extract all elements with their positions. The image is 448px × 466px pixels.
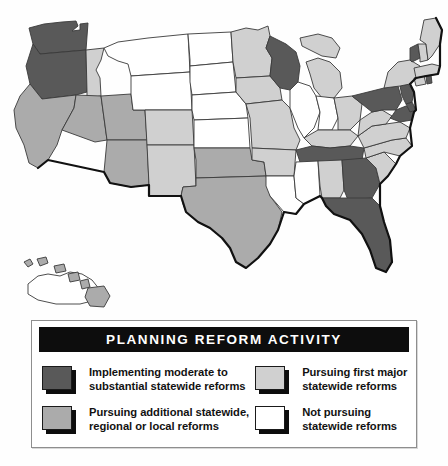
state-MN[interactable] [231,26,272,78]
legend-label-line2: statewide reforms [302,420,397,434]
legend-item-implementing[interactable]: Implementing moderate to substantial sta… [42,359,249,399]
legend-label-additional: Pursuing additional statewide, regional … [89,405,249,433]
legend-items-grid: Implementing moderate to substantial sta… [42,359,406,439]
legend-swatch-not-pursuing [255,406,285,430]
legend-swatch-wrap-additional [42,406,80,436]
legend-swatch-first-major [255,366,285,390]
state-NY[interactable] [384,60,420,88]
legend-label-implementing: Implementing moderate to substantial sta… [89,365,245,393]
legend-title: PLANNING REFORM ACTIVITY [106,332,342,347]
state-ND[interactable] [188,32,233,66]
legend-label-line2: statewide reforms [302,380,407,394]
state-ID[interactable] [86,48,104,98]
state-WA[interactable] [29,21,88,54]
legend-label-first-major: Pursuing first major statewide reforms [302,365,407,393]
state-SD[interactable] [190,62,236,95]
state-AZ[interactable] [104,140,149,187]
us-choropleth-map [0,0,448,312]
legend-label-line1: Not pursuing [302,406,397,420]
legend-swatch-additional [42,406,72,430]
legend-label-line1: Pursuing additional statewide, [89,406,249,420]
figure-root: PLANNING REFORM ACTIVITY Implementing mo… [0,0,448,466]
state-KY[interactable] [304,130,358,148]
state-MI[interactable] [300,34,340,58]
legend-panel: PLANNING REFORM ACTIVITY Implementing mo… [31,320,417,448]
legend-label-line2: regional or local reforms [89,420,249,434]
legend-item-not-pursuing[interactable]: Not pursuing statewide reforms [255,399,407,439]
legend-item-first-major[interactable]: Pursuing first major statewide reforms [255,359,407,399]
state-CO[interactable] [145,110,194,145]
state-WY[interactable] [131,72,192,110]
legend-label-line1: Implementing moderate to [89,366,245,380]
state-MT[interactable] [104,34,190,76]
legend-label-not-pursuing: Not pursuing statewide reforms [302,405,397,433]
legend-swatch-implementing [42,366,72,390]
legend-label-line1: Pursuing first major [302,366,407,380]
legend-swatch-wrap-not-pursuing [255,406,293,436]
legend-swatch-wrap-implementing [42,366,80,396]
state-AL[interactable] [318,160,344,198]
map-svg [0,0,448,312]
legend-item-additional[interactable]: Pursuing additional statewide, regional … [42,399,249,439]
legend-title-bar: PLANNING REFORM ACTIVITY [39,327,409,352]
legend-swatch-wrap-first-major [255,366,293,396]
legend-label-line2: substantial statewide reforms [89,380,245,394]
state-KS[interactable] [194,118,250,148]
